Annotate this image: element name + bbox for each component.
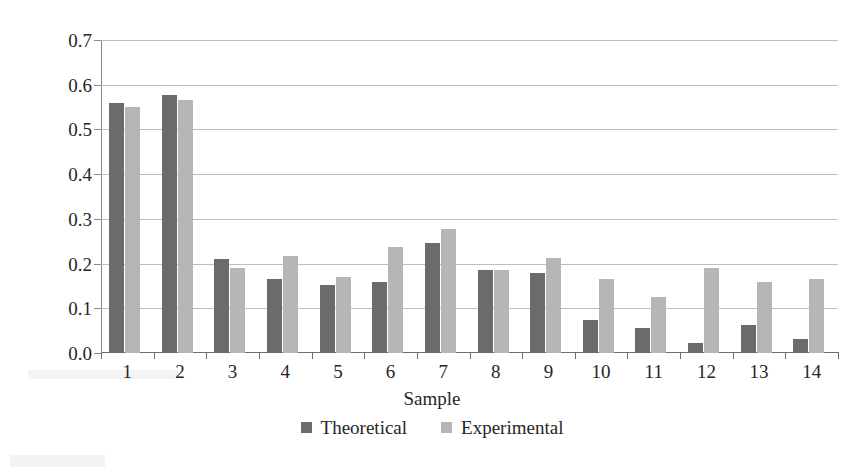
y-axis-tick-label: 0.1 xyxy=(46,299,92,318)
bar-theoretical[interactable] xyxy=(425,243,440,353)
chart-legend: TheoreticalExperimental xyxy=(0,418,864,437)
bar-group xyxy=(154,40,207,353)
bar-theoretical[interactable] xyxy=(109,103,124,353)
bar-group xyxy=(364,40,417,353)
bar-group xyxy=(470,40,523,353)
x-axis-tick-mark xyxy=(312,353,313,359)
bar-theoretical[interactable] xyxy=(530,273,545,353)
bar-theoretical[interactable] xyxy=(372,282,387,353)
bar-group xyxy=(627,40,680,353)
bar-theoretical[interactable] xyxy=(583,320,598,353)
x-axis-tick-mark xyxy=(785,353,786,359)
bar-experimental[interactable] xyxy=(599,279,614,353)
bar-experimental[interactable] xyxy=(336,277,351,353)
x-axis-title: Sample xyxy=(0,388,864,410)
bar-group xyxy=(259,40,312,353)
legend-label: Theoretical xyxy=(321,418,408,437)
legend-item[interactable]: Theoretical xyxy=(301,418,408,437)
x-axis-tick-mark xyxy=(206,353,207,359)
x-axis-tick-mark xyxy=(259,353,260,359)
x-axis-tick-mark xyxy=(417,353,418,359)
bar-theoretical[interactable] xyxy=(267,279,282,353)
bar-experimental[interactable] xyxy=(757,282,772,353)
bar-experimental[interactable] xyxy=(546,258,561,353)
bar-group xyxy=(785,40,838,353)
y-axis-tick-mark xyxy=(94,85,101,86)
x-axis-tick-mark xyxy=(733,353,734,359)
x-axis-tick-label: 13 xyxy=(733,361,785,383)
x-axis-tick-mark xyxy=(470,353,471,359)
x-axis-tick-label: 8 xyxy=(470,361,522,383)
bar-experimental[interactable] xyxy=(230,268,245,353)
bar-theoretical[interactable] xyxy=(320,285,335,353)
x-axis-tick-label: 14 xyxy=(786,361,838,383)
x-axis-tick-mark xyxy=(101,353,102,359)
bar-chart-figure: Pore diameter, mm 0.70.60.50.40.30.20.10… xyxy=(0,0,864,473)
y-axis-tick-mark xyxy=(94,40,101,41)
y-axis-tick-mark xyxy=(94,174,101,175)
x-axis-tick-label: 5 xyxy=(312,361,364,383)
x-axis-tick-label: 9 xyxy=(522,361,574,383)
x-axis-tick-label: 4 xyxy=(259,361,311,383)
bar-theoretical[interactable] xyxy=(214,259,229,353)
y-axis-tick-mark xyxy=(94,219,101,220)
x-axis-tick-mark xyxy=(838,353,839,359)
x-axis-tick-mark xyxy=(575,353,576,359)
bar-experimental[interactable] xyxy=(125,107,140,353)
x-axis-tick-label: 11 xyxy=(628,361,680,383)
x-axis-tick-mark xyxy=(154,353,155,359)
bar-theoretical[interactable] xyxy=(162,95,177,353)
legend-item[interactable]: Experimental xyxy=(441,418,563,437)
bar-group xyxy=(206,40,259,353)
bar-experimental[interactable] xyxy=(651,297,666,353)
bar-theoretical[interactable] xyxy=(478,270,493,353)
bar-theoretical[interactable] xyxy=(688,343,703,353)
y-axis-tick-label: 0.7 xyxy=(46,31,92,50)
x-axis-tick-mark xyxy=(680,353,681,359)
bar-experimental[interactable] xyxy=(809,279,824,353)
bar-group xyxy=(680,40,733,353)
x-axis-tick-label: 12 xyxy=(680,361,732,383)
legend-label: Experimental xyxy=(461,418,563,437)
x-axis-tick-label: 1 xyxy=(101,361,153,383)
bar-experimental[interactable] xyxy=(494,270,509,353)
bar-group xyxy=(522,40,575,353)
bar-experimental[interactable] xyxy=(388,247,403,353)
x-axis-tick-label: 2 xyxy=(154,361,206,383)
bar-experimental[interactable] xyxy=(441,229,456,353)
bar-theoretical[interactable] xyxy=(741,325,756,353)
x-axis-tick-mark xyxy=(364,353,365,359)
x-axis-tick-mark xyxy=(627,353,628,359)
x-axis-tick-label: 10 xyxy=(575,361,627,383)
x-axis-tick-label: 6 xyxy=(365,361,417,383)
y-axis-tick-label: 0.5 xyxy=(46,120,92,139)
bar-group xyxy=(417,40,470,353)
y-axis-tick-mark xyxy=(94,353,101,354)
bar-experimental[interactable] xyxy=(283,256,298,353)
bar-group xyxy=(733,40,786,353)
bar-experimental[interactable] xyxy=(178,100,193,353)
legend-swatch-icon xyxy=(301,422,312,433)
bar-theoretical[interactable] xyxy=(793,339,808,353)
y-axis-tick-mark xyxy=(94,129,101,130)
y-axis-tick-label: 0.0 xyxy=(46,344,92,363)
x-axis-tick-label: 3 xyxy=(207,361,259,383)
bar-experimental[interactable] xyxy=(704,268,719,353)
y-axis-tick-label: 0.4 xyxy=(46,165,92,184)
bar-group xyxy=(575,40,628,353)
y-axis-tick-label: 0.2 xyxy=(46,255,92,274)
y-axis-tick-mark xyxy=(94,308,101,309)
y-axis-tick-label: 0.3 xyxy=(46,210,92,229)
x-axis-tick-label: 7 xyxy=(417,361,469,383)
y-axis-tick-label: 0.6 xyxy=(46,76,92,95)
bar-theoretical[interactable] xyxy=(635,328,650,353)
legend-swatch-icon xyxy=(441,422,452,433)
y-axis-tick-mark xyxy=(94,264,101,265)
plot-area xyxy=(101,40,838,353)
x-axis-tick-mark xyxy=(522,353,523,359)
bar-group xyxy=(312,40,365,353)
bar-group xyxy=(101,40,154,353)
